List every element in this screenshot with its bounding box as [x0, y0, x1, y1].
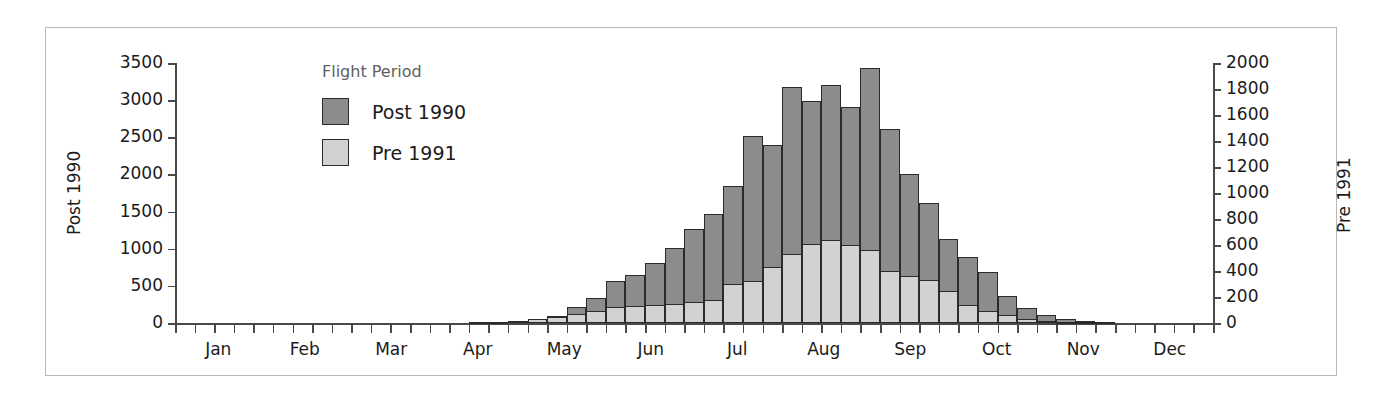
x-tick-mark [841, 324, 843, 333]
right-tick-label: 600 [1226, 234, 1258, 254]
x-tick-mark [567, 324, 569, 333]
legend-label-pre-1991: Pre 1991 [372, 142, 457, 164]
legend-label-post-1990: Post 1990 [372, 101, 466, 123]
x-axis-month-label: Jan [175, 339, 262, 359]
right-spine [1213, 63, 1215, 324]
x-tick-mark [606, 324, 608, 333]
x-tick-mark [919, 324, 921, 333]
bar-pre-1991 [841, 245, 861, 323]
bar-pre-1991 [821, 240, 841, 323]
bar-pre-1991 [880, 271, 900, 323]
bar-pre-1991 [606, 307, 626, 323]
x-tick-mark [782, 324, 784, 333]
bar-pre-1991 [684, 302, 704, 323]
x-tick-mark [1037, 324, 1039, 333]
x-tick-mark [1115, 324, 1117, 333]
x-tick-mark [978, 324, 980, 333]
x-tick-mark [332, 324, 334, 333]
x-tick-mark [665, 324, 667, 333]
bar-pre-1991 [978, 311, 998, 323]
x-tick-mark [1095, 324, 1097, 333]
right-tick-label: 0 [1226, 312, 1237, 332]
x-tick-mark [860, 324, 862, 333]
x-axis-month-label: Dec [1127, 339, 1214, 359]
x-tick-mark [175, 324, 177, 333]
x-axis-month-label: Oct [954, 339, 1041, 359]
x-tick-mark [684, 324, 686, 333]
bar-pre-1991 [586, 311, 606, 323]
right-axis-title: Pre 1991 [1334, 157, 1354, 233]
bar-pre-1991 [958, 305, 978, 323]
x-tick-mark [293, 324, 295, 333]
x-tick-mark [371, 324, 373, 333]
x-tick-mark [1213, 324, 1215, 333]
x-tick-mark [234, 324, 236, 333]
bar-pre-1991 [802, 244, 822, 323]
right-tick-label: 200 [1226, 286, 1258, 306]
right-tick-label: 1200 [1226, 156, 1269, 176]
x-tick-mark [528, 324, 530, 333]
x-tick-mark [958, 324, 960, 333]
x-tick-mark [1193, 324, 1195, 333]
x-tick-mark [1017, 324, 1019, 333]
bar-pre-1991 [939, 291, 959, 324]
left-tick-label: 1500 [120, 201, 163, 221]
left-tick-label: 3000 [120, 89, 163, 109]
left-tick-label: 0 [152, 312, 163, 332]
right-tick-label: 1400 [1226, 130, 1269, 150]
left-tick-label: 1000 [120, 238, 163, 258]
chart-canvas: Post 1990 Pre 1991 050010001500200025003… [0, 0, 1382, 403]
x-tick-mark [410, 324, 412, 333]
x-tick-mark [312, 324, 314, 333]
x-tick-mark [508, 324, 510, 333]
bar-pre-1991 [919, 280, 939, 323]
x-axis-month-label: Aug [781, 339, 868, 359]
left-axis-title: Post 1990 [64, 151, 84, 235]
x-tick-mark [449, 324, 451, 333]
x-axis-month-label: Feb [262, 339, 349, 359]
bar-post-1990 [1095, 322, 1115, 324]
bar-pre-1991 [900, 276, 920, 323]
x-tick-mark [586, 324, 588, 333]
bar-pre-1991 [469, 322, 489, 324]
legend-item-pre-1991[interactable]: Pre 1991 [322, 139, 466, 166]
bar-pre-1991 [763, 267, 783, 323]
x-tick-mark [1135, 324, 1137, 333]
x-tick-mark [1056, 324, 1058, 333]
x-axis-month-label: Sep [867, 339, 954, 359]
x-axis-month-label: May [521, 339, 608, 359]
right-tick-label: 1800 [1226, 78, 1269, 98]
x-tick-mark [547, 324, 549, 333]
x-tick-mark [1174, 324, 1176, 333]
bar-pre-1991 [998, 315, 1018, 323]
legend-item-post-1990[interactable]: Post 1990 [322, 98, 466, 125]
legend-title: Flight Period [322, 62, 466, 81]
x-tick-mark [998, 324, 1000, 333]
bar-pre-1991 [665, 304, 685, 323]
bar-pre-1991 [528, 319, 548, 323]
legend: Flight Period Post 1990 Pre 1991 [322, 62, 466, 180]
x-tick-mark [645, 324, 647, 333]
x-tick-mark [195, 324, 197, 333]
bar-pre-1991 [743, 281, 763, 323]
bar-pre-1991 [860, 250, 880, 323]
x-tick-mark [880, 324, 882, 333]
x-axis-month-label: Jul [694, 339, 781, 359]
bar-pre-1991 [567, 314, 587, 323]
x-tick-mark [253, 324, 255, 333]
bar-pre-1991 [1056, 322, 1076, 324]
left-tick-label: 2500 [120, 126, 163, 146]
left-tick-label: 3500 [120, 52, 163, 72]
bar-pre-1991 [488, 322, 508, 324]
bar-pre-1991 [704, 300, 724, 323]
bar-pre-1991 [645, 305, 665, 323]
bar-pre-1991 [723, 284, 743, 323]
x-tick-mark [625, 324, 627, 333]
x-tick-mark [723, 324, 725, 333]
x-tick-mark [802, 324, 804, 333]
x-axis-month-label: Nov [1040, 339, 1127, 359]
left-spine [175, 63, 177, 324]
x-tick-mark [900, 324, 902, 333]
left-tick-label: 500 [131, 275, 163, 295]
right-tick-label: 1000 [1226, 182, 1269, 202]
